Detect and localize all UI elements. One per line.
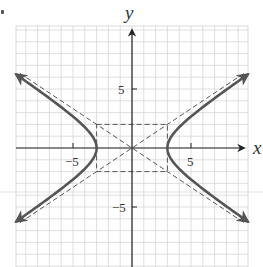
y-tick-label-neg5: −5	[112, 200, 126, 215]
x-tick-label-5: 5	[187, 154, 194, 169]
y-tick-label-5: 5	[118, 82, 125, 97]
x-axis-label: x	[252, 137, 262, 158]
y-axis-label: y	[123, 2, 134, 23]
x-tick-label-neg5: −5	[65, 154, 79, 169]
hyperbola-graph: y x −5 5 5 −5	[0, 0, 263, 267]
